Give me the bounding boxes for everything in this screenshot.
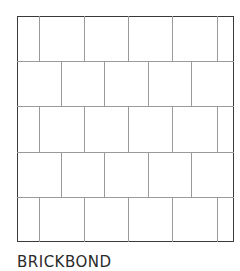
pattern-title: BRICKBOND bbox=[17, 253, 112, 271]
brickbond-pattern bbox=[0, 0, 240, 271]
